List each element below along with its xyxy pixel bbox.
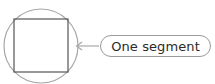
inscribed-square-shape [14,19,68,72]
arrow-left-icon [77,42,100,50]
callout-label-box: One segment [100,35,211,57]
callout-label: One segment [111,39,200,54]
